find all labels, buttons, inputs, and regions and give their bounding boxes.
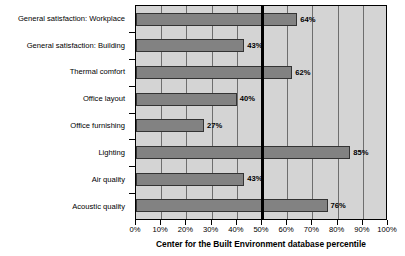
x-axis-tick-label: 50%	[253, 226, 268, 234]
category-label: General satisfaction: Building	[0, 32, 130, 59]
x-axis-tick-label: 10%	[153, 226, 168, 234]
reference-line-50	[261, 6, 264, 219]
bar	[136, 66, 292, 79]
category-label: General satisfaction: Workplace	[0, 5, 130, 32]
bar	[136, 146, 350, 159]
bar-value-label: 76%	[331, 202, 346, 210]
bar-value-label: 62%	[295, 69, 310, 77]
bar-chart: General satisfaction: Workplace General …	[0, 0, 405, 256]
bar-value-label: 27%	[207, 122, 222, 130]
x-axis-tick-label: 80%	[329, 226, 344, 234]
x-axis-tick-label: 40%	[228, 226, 243, 234]
x-axis-tick-label: 90%	[354, 226, 369, 234]
x-axis-tick-label: 0%	[130, 226, 141, 234]
category-label: Lighting	[0, 139, 130, 166]
category-axis-labels: General satisfaction: Workplace General …	[0, 5, 130, 220]
x-axis-tick-label: 70%	[304, 226, 319, 234]
bar	[136, 39, 244, 52]
plot-area: 64%43%62%40%27%85%43%76%	[135, 5, 387, 220]
bar	[136, 199, 328, 212]
bar	[136, 93, 237, 106]
category-label: Thermal comfort	[0, 59, 130, 86]
x-axis-tick-label: 20%	[178, 226, 193, 234]
x-axis-tick-label: 30%	[203, 226, 218, 234]
category-label: Air quality	[0, 166, 130, 193]
x-axis-tick-labels: 0%10%20%30%40%50%60%70%80%90%100%	[135, 226, 387, 237]
x-axis-tick-label: 60%	[279, 226, 294, 234]
bar	[136, 119, 204, 132]
bar-value-label: 85%	[353, 149, 368, 157]
bar-value-label: 64%	[300, 16, 315, 24]
bar	[136, 173, 244, 186]
x-axis-tick-label: 100%	[377, 226, 396, 234]
category-label: Acoustic quality	[0, 193, 130, 220]
bar-value-label: 40%	[240, 95, 255, 103]
bar	[136, 13, 297, 26]
x-axis-title: Center for the Built Environment databas…	[135, 240, 387, 248]
category-label: Office layout	[0, 86, 130, 113]
category-label: Office furnishing	[0, 113, 130, 140]
